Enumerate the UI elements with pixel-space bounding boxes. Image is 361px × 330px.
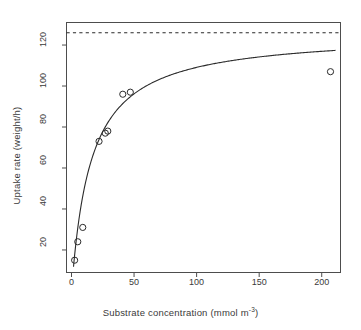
plot-frame xyxy=(67,23,341,273)
y-tick-label: 80 xyxy=(30,121,56,133)
data-point xyxy=(127,89,133,95)
x-axis-title: Substrate concentration (mmol m-3) xyxy=(0,306,361,318)
x-tick-label: 50 xyxy=(129,277,139,287)
chart-figure: 050100150200 20406080100120 Substrate co… xyxy=(0,0,361,330)
y-tick-label: 100 xyxy=(30,80,56,92)
x-axis-title-tail: ) xyxy=(255,307,258,318)
x-tick-label: 0 xyxy=(69,277,74,287)
x-tick-label: 150 xyxy=(252,277,267,287)
y-axis-ticks xyxy=(62,45,67,250)
y-axis-title: Uptake rate (weight/h) xyxy=(11,56,22,256)
x-axis-title-text: Substrate concentration (mmol m xyxy=(103,307,249,318)
y-tick-label: 40 xyxy=(30,203,56,215)
y-tick-label: 120 xyxy=(30,39,56,51)
x-tick-label: 200 xyxy=(314,277,329,287)
data-point xyxy=(80,224,86,230)
y-tick-label: 60 xyxy=(30,162,56,174)
data-point xyxy=(327,69,333,75)
data-points xyxy=(72,69,334,264)
data-point xyxy=(120,91,126,97)
x-tick-label: 100 xyxy=(189,277,204,287)
fit-curve xyxy=(74,50,336,266)
y-tick-label: 20 xyxy=(30,244,56,256)
